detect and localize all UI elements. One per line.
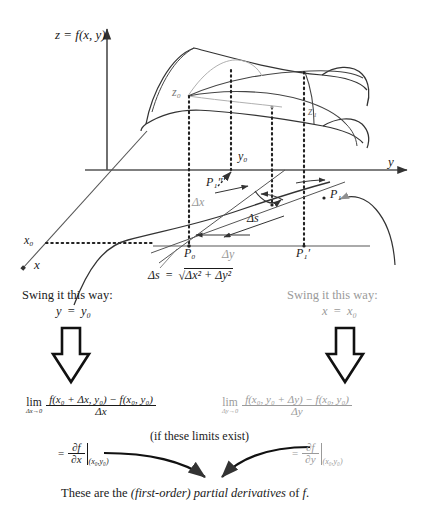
- label-y0: y₀: [238, 150, 248, 162]
- label-delta-x: Δx: [192, 196, 204, 208]
- axis-label-z: z = f(x, y): [55, 28, 106, 41]
- pointer-to-P1: [296, 180, 325, 183]
- limit-left-denominator: Δx: [46, 405, 156, 417]
- arc-formula-lhs: Δs: [148, 268, 160, 282]
- label-delta-y: Δy: [222, 248, 234, 260]
- result-left-numerator: ∂f: [68, 442, 84, 453]
- arc-length-formula: Δs = √Δx² + Δy²: [148, 268, 233, 282]
- label-z1: z₁: [308, 105, 317, 117]
- conclusion-emphasis: (first-order) partial derivatives: [131, 486, 286, 500]
- lim-sub-left: Δx→0: [26, 408, 42, 414]
- result-right-fraction: ∂f ∂y: [302, 442, 318, 465]
- curved-arrow-from-right: [340, 197, 395, 265]
- conclusion-part2: of: [286, 486, 303, 500]
- swing-left-line2: y = y₀: [56, 305, 91, 318]
- conclusion-sentence: These are the (first-order) partial deri…: [61, 487, 309, 500]
- eval-bar-left: [87, 443, 88, 465]
- limit-left-operator: lim Δx→0: [26, 397, 42, 414]
- label-P1-dprime: P₁″: [206, 176, 223, 188]
- result-left-eval-at: (x₀,y₀): [89, 458, 109, 466]
- swing-right-line2: x = x₀: [322, 305, 357, 318]
- limits-exist-caveat: (if these limits exist): [150, 430, 249, 442]
- label-x0: x₀: [24, 234, 34, 246]
- limit-right-numerator: f(x₀, y₀ + Δy) − f(x₀, y₀): [242, 394, 352, 405]
- swing-right-lhs: x: [322, 304, 328, 318]
- lim-sub-right: Δy→0: [222, 408, 238, 414]
- point-P1-dprime: [270, 203, 273, 206]
- label-P1: P₁: [330, 188, 342, 200]
- label-P0: P₀: [184, 247, 196, 259]
- label-delta-s: Δs: [247, 212, 259, 224]
- limit-right-denominator: Δy: [242, 405, 352, 417]
- figure-canvas: z = f(x, y) y x z₀ z₁ y₀ x₀ P₀ P₁′ P₁″ P…: [0, 0, 426, 512]
- limit-left-fraction: f(x₀ + Δx, y₀) − f(x₀, y₀) Δx: [46, 394, 156, 417]
- result-right: = ∂f ∂y (x₀,y₀): [292, 442, 343, 465]
- swing-left-lhs: y: [56, 304, 62, 318]
- limit-left-numerator: f(x₀ + Δx, y₀) − f(x₀, y₀): [46, 394, 156, 405]
- conclusion-part1: These are the: [61, 486, 131, 500]
- limit-left: lim Δx→0 f(x₀ + Δx, y₀) − f(x₀, y₀) Δx: [26, 394, 156, 417]
- label-z0: z₀: [172, 86, 181, 98]
- label-P1-prime: P₁′: [296, 247, 310, 259]
- result-left: = ∂f ∂x (x₀,y₀): [58, 442, 109, 465]
- limit-right: lim Δy→0 f(x₀, y₀ + Δy) − f(x₀, y₀) Δy: [222, 394, 352, 417]
- eval-bar-right: [321, 443, 322, 465]
- axis-label-x: x: [34, 258, 40, 271]
- swing-right-line1: Swing it this way:: [287, 289, 378, 302]
- converge-arrow-left: [104, 453, 205, 477]
- swing-arrow-left: [53, 328, 89, 382]
- axis-x: [23, 131, 147, 268]
- swing-left-eq: =: [68, 304, 75, 318]
- swing-arrow-right: [327, 328, 363, 382]
- swing-left-rhs: y₀: [81, 304, 91, 318]
- arc-formula-eq: =: [166, 268, 173, 282]
- arc-formula-radicand: Δx² + Δy²: [184, 268, 233, 281]
- result-left-fraction: ∂f ∂x: [68, 442, 84, 465]
- result-left-eq: =: [58, 448, 64, 459]
- result-left-denominator: ∂x: [68, 453, 84, 465]
- point-P1: [322, 196, 325, 199]
- limit-right-operator: lim Δy→0: [222, 397, 238, 414]
- limit-right-fraction: f(x₀, y₀ + Δy) − f(x₀, y₀) Δy: [242, 394, 352, 417]
- swing-right-eq: =: [334, 304, 341, 318]
- result-right-eval-at: (x₀,y₀): [323, 458, 343, 466]
- gray-curve-endpoint: [270, 105, 273, 108]
- result-right-eq: =: [292, 448, 298, 459]
- axis-label-y: y: [388, 155, 394, 168]
- result-right-numerator: ∂f: [302, 442, 318, 453]
- result-right-denominator: ∂y: [302, 453, 318, 465]
- conclusion-part3: .: [306, 486, 309, 500]
- arc-formula-pointer: [160, 249, 177, 268]
- swing-right-rhs: x₀: [347, 304, 357, 318]
- swing-left-line1: Swing it this way:: [22, 289, 113, 302]
